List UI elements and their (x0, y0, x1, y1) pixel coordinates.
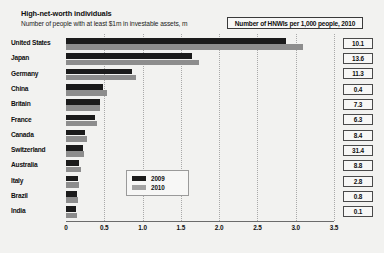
country-label: Switzerland (11, 146, 64, 153)
bar-group (66, 113, 334, 128)
bar-2010 (66, 182, 79, 188)
bar-2010 (66, 75, 136, 81)
legend-item: 2010 (132, 183, 188, 192)
bar-2009 (66, 38, 286, 44)
hnwi-per-capita-value: 2.8 (354, 178, 362, 185)
x-tick-label: 2.5 (253, 224, 262, 231)
chart-row: Australia8.8 (0, 159, 384, 174)
bar-2009 (66, 176, 78, 182)
chart-row: Britain7.3 (0, 98, 384, 113)
bar-2010 (66, 90, 107, 96)
hnwi-per-capita-value-box: 2.8 (343, 176, 373, 187)
bar-group (66, 128, 334, 143)
bar-2010 (66, 44, 303, 50)
bar-2009 (66, 99, 100, 105)
hnwi-per-capita-value: 13.6 (352, 55, 364, 62)
hnwi-per-capita-value-box: 0.1 (343, 206, 373, 217)
bar-2010 (66, 197, 78, 203)
country-label: Canada (11, 131, 64, 138)
hnwi-per-capita-value: 10.1 (352, 40, 364, 47)
bar-2009 (66, 160, 79, 166)
country-label: Australia (11, 161, 64, 168)
hnwi-per-capita-value: 11.3 (352, 70, 364, 77)
bar-2010 (66, 213, 77, 219)
country-label: India (11, 207, 64, 214)
bar-group (66, 82, 334, 97)
x-tick-label: 2.0 (215, 224, 224, 231)
legend-swatch-2010 (132, 185, 146, 191)
hnwi-per-capita-value: 0.4 (354, 86, 362, 93)
hnwi-per-capita-value: 0.8 (354, 193, 362, 200)
country-label: Brazil (11, 192, 64, 199)
chart-row: Switzerland31.4 (0, 144, 384, 159)
country-label: Italy (11, 177, 64, 184)
bar-2009 (66, 69, 132, 75)
hnwi-per-capita-value-box: 10.1 (343, 38, 373, 49)
bar-group (66, 190, 334, 205)
hnwi-per-capita-value: 8.8 (354, 162, 362, 169)
x-axis-line (66, 221, 334, 222)
chart-row: Germany11.3 (0, 67, 384, 82)
hnwi-per-capita-value-box: 0.4 (343, 84, 373, 95)
bar-group (66, 67, 334, 82)
bar-2009 (66, 145, 83, 151)
hnwi-per-capita-header-box: Number of HNWIs per 1,000 people, 2010 (227, 17, 363, 29)
country-label: China (11, 85, 64, 92)
legend-label-2010: 2010 (151, 184, 165, 191)
x-tick-label: 0.5 (100, 224, 109, 231)
x-tick-label: 3.5 (330, 224, 339, 231)
hnwi-per-capita-value: 6.3 (354, 116, 362, 123)
chart-row: Canada8.4 (0, 128, 384, 143)
hnwi-per-capita-value-box: 11.3 (343, 68, 373, 79)
chart-legend: 2009 2010 (126, 170, 189, 196)
hnwi-per-capita-value-box: 6.3 (343, 114, 373, 125)
bar-2009 (66, 130, 85, 136)
country-label: France (11, 116, 64, 123)
hnwi-per-capita-value-box: 8.4 (343, 130, 373, 141)
bar-group (66, 159, 334, 174)
x-tick-label: 1.0 (138, 224, 147, 231)
bar-2009 (66, 53, 192, 59)
bar-2009 (66, 115, 95, 121)
bar-2010 (66, 121, 97, 127)
chart-row: India0.1 (0, 205, 384, 220)
chart-row: United States10.1 (0, 37, 384, 52)
x-tick-label: 1.5 (177, 224, 186, 231)
bar-2009 (66, 206, 76, 212)
hnwi-per-capita-value-box: 0.8 (343, 191, 373, 202)
x-tick-label: 0 (64, 224, 67, 231)
chart-row: China0.4 (0, 82, 384, 97)
hnwi-per-capita-value: 31.4 (352, 147, 364, 154)
country-label: Germany (11, 70, 64, 77)
bar-group (66, 144, 334, 159)
bar-group (66, 205, 334, 220)
hnwi-per-capita-value: 0.1 (354, 208, 362, 215)
legend-swatch-2009 (132, 176, 146, 182)
x-tick-label: 3.0 (291, 224, 300, 231)
bar-2010 (66, 105, 100, 111)
hnwi-per-capita-value-box: 13.6 (343, 53, 373, 64)
x-axis-tick-labels: 00.51.01.52.02.53.03.5 (66, 224, 334, 236)
chart-page: High-net-worth individuals Number of peo… (0, 0, 384, 253)
bar-group (66, 174, 334, 189)
bar-2010 (66, 60, 199, 66)
bar-group (66, 52, 334, 67)
chart-row: Japan13.6 (0, 52, 384, 67)
bar-2009 (66, 84, 103, 90)
bar-group (66, 37, 334, 52)
chart-row: France6.3 (0, 113, 384, 128)
hnwi-per-capita-value-box: 31.4 (343, 145, 373, 156)
bar-2010 (66, 151, 84, 157)
hnwi-per-capita-value-box: 7.3 (343, 99, 373, 110)
bar-2009 (66, 191, 77, 197)
country-label: Japan (11, 54, 64, 61)
legend-item: 2009 (132, 174, 188, 183)
hnwi-per-capita-value: 8.4 (354, 132, 362, 139)
hnwi-per-capita-value-box: 8.8 (343, 160, 373, 171)
hnwi-per-capita-value: 7.3 (354, 101, 362, 108)
chart-row: Brazil0.8 (0, 190, 384, 205)
bar-group (66, 98, 334, 113)
hnwi-per-capita-header-label: Number of HNWIs per 1,000 people, 2010 (235, 20, 355, 27)
chart-row: Italy2.8 (0, 174, 384, 189)
bar-2010 (66, 136, 87, 142)
